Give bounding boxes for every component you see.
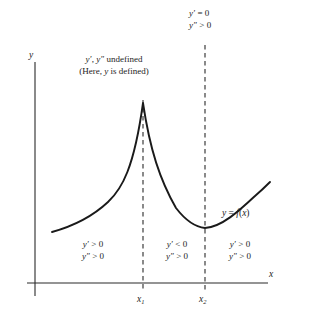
annotation-region-right-line2: y″ > 0: [212, 251, 268, 263]
tick-label-x1: x1: [137, 293, 144, 306]
annotation-x2-top-line1: y′ = 0: [189, 8, 211, 20]
calculus-curve-figure: y x y′ = 0 y″ > 0 y′, y″ undefined (Here…: [0, 0, 318, 332]
plot-canvas: [0, 0, 318, 332]
annotation-region-middle: y′ < 0 y″ > 0: [152, 239, 202, 262]
annotation-x2-top: y′ = 0 y″ > 0: [189, 8, 211, 31]
annotation-region-middle-line1: y′ < 0: [152, 239, 202, 251]
annotation-region-right-line1: y′ > 0: [212, 239, 268, 251]
annotation-x1-cusp-line2: (Here, y is defined): [58, 66, 170, 78]
annotation-region-left-line1: y′ > 0: [58, 239, 128, 251]
tick-label-x2: x2: [199, 293, 206, 306]
y-axis-label: y: [29, 49, 33, 61]
annotation-x1-cusp-line1: y′, y″ undefined: [58, 54, 170, 66]
annotation-region-left-line2: y″ > 0: [58, 251, 128, 263]
x-axis-label: x: [269, 268, 273, 280]
annotation-x1-cusp: y′, y″ undefined (Here, y is defined): [58, 54, 170, 77]
annotation-x2-top-line2: y″ > 0: [189, 20, 211, 32]
annotation-region-right: y′ > 0 y″ > 0: [212, 239, 268, 262]
annotation-region-left: y′ > 0 y″ > 0: [58, 239, 128, 262]
annotation-region-middle-line2: y″ > 0: [152, 251, 202, 263]
curve-equation-label: y = f(x): [222, 207, 250, 219]
